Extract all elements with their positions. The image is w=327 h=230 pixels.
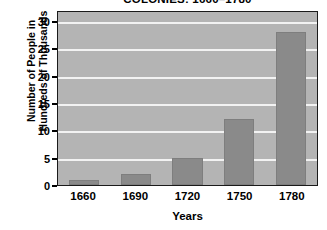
bar-slot [58, 12, 110, 185]
x-axis-tick-label: 1750 [214, 190, 266, 202]
x-axis-tick-label: 1720 [161, 190, 213, 202]
x-axis-tick-label: 1660 [57, 190, 109, 202]
bar-1780 [276, 32, 306, 185]
y-axis-tick: 10 [38, 124, 57, 138]
x-axis-label: Years [57, 210, 318, 222]
y-axis-tick: 20 [38, 70, 57, 84]
y-axis-tick: 0 [44, 179, 57, 193]
x-axis-tick-label: 1780 [266, 190, 318, 202]
bar-1690 [121, 174, 151, 185]
y-axis-tick-label: 5 [44, 152, 50, 166]
bar-chart-figure: COLONIES: 1660–1780 Number of People in … [0, 0, 327, 230]
y-axis-tick-label: 15 [38, 97, 50, 111]
bar-slot [110, 12, 162, 185]
bar-slot [213, 12, 265, 185]
y-axis-tick-label: 10 [38, 124, 50, 138]
y-axis-tick-label: 20 [38, 70, 50, 84]
y-axis-tick: 30 [38, 15, 57, 29]
plot-area [57, 11, 318, 186]
y-axis-tick: 15 [38, 97, 57, 111]
bar-1660 [69, 180, 99, 185]
y-axis-tick: 5 [44, 152, 57, 166]
y-axis-tick-label: 30 [38, 15, 50, 29]
y-axis-tick: 25 [38, 42, 57, 56]
x-axis-tick-label: 1690 [109, 190, 161, 202]
chart-title: COLONIES: 1660–1780 [57, 0, 318, 5]
y-axis-tick-label: 25 [38, 42, 50, 56]
bar-series [58, 12, 317, 185]
x-axis-tick-labels: 16601690172017501780 [57, 190, 318, 202]
y-axis-tick-label: 0 [44, 179, 50, 193]
bar-1720 [172, 158, 202, 185]
bar-slot [162, 12, 214, 185]
bar-slot [265, 12, 317, 185]
y-axis-tick-labels: 051015202530 [0, 0, 57, 230]
bar-1750 [224, 119, 254, 185]
